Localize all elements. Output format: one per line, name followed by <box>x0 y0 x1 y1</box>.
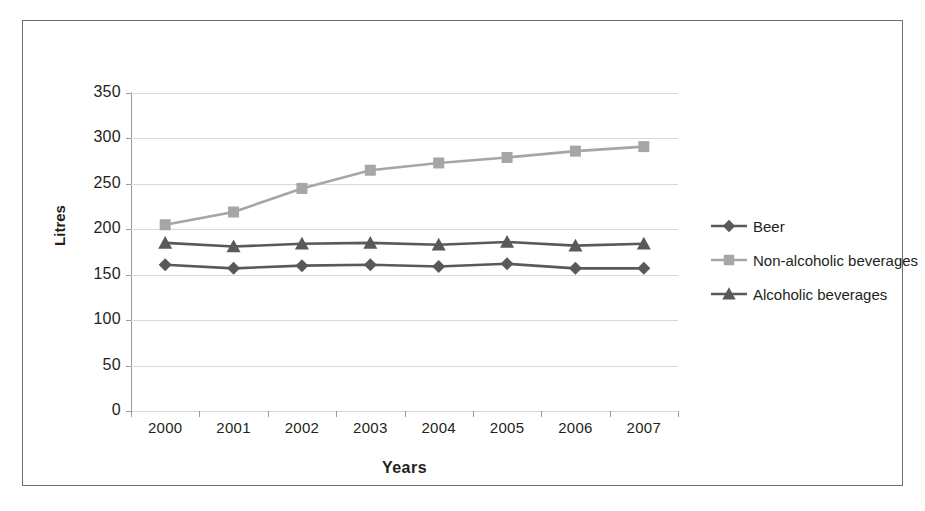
diamond-marker <box>723 220 735 232</box>
diamond-marker <box>501 257 514 270</box>
legend-label: Alcoholic beverages <box>753 286 887 303</box>
diamond-marker <box>364 258 377 271</box>
diamond-marker <box>227 262 240 275</box>
diamond-marker <box>569 262 582 275</box>
square-marker <box>502 152 513 163</box>
diamond-marker <box>295 259 308 272</box>
legend-key-square-icon <box>709 251 749 269</box>
chart-frame: 050100150200250300350 200020012002200320… <box>22 20 903 486</box>
legend-item-non-alcoholic-beverages[interactable]: Non-alcoholic beverages <box>709 243 909 277</box>
legend-key-diamond-icon <box>709 217 749 235</box>
square-marker <box>296 183 307 194</box>
diamond-marker <box>159 258 172 271</box>
square-marker <box>365 165 376 176</box>
legend-label: Beer <box>753 218 785 235</box>
legend-key-triangle-icon <box>709 285 749 303</box>
chart-legend: BeerNon-alcoholic beveragesAlcoholic bev… <box>709 209 909 311</box>
square-marker <box>724 255 734 265</box>
square-marker <box>228 207 239 218</box>
chart-screenshot: 050100150200250300350 200020012002200320… <box>0 0 925 511</box>
square-marker <box>160 219 171 230</box>
diamond-marker <box>432 260 445 273</box>
square-marker <box>570 146 581 157</box>
square-marker <box>638 141 649 152</box>
square-marker <box>433 157 444 168</box>
legend-label: Non-alcoholic beverages <box>753 252 918 269</box>
diamond-marker <box>637 262 650 275</box>
legend-item-alcoholic-beverages[interactable]: Alcoholic beverages <box>709 277 909 311</box>
legend-item-beer[interactable]: Beer <box>709 209 909 243</box>
